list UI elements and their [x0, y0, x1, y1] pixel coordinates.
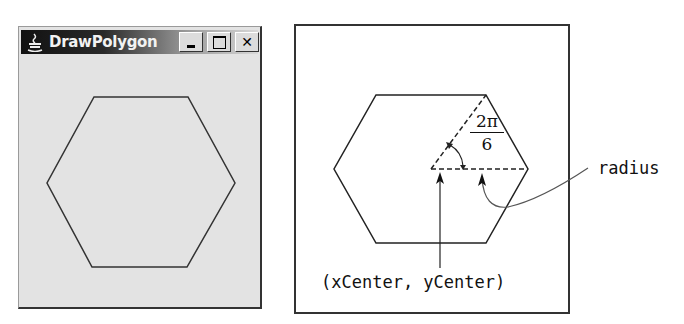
angle-arc-icon — [450, 145, 463, 166]
angle-label: 2π 6 — [470, 110, 504, 155]
center-label: (xCenter, yCenter) — [321, 272, 505, 292]
radius-label: radius — [598, 158, 659, 178]
window-hexagon — [47, 97, 235, 267]
angle-denominator: 6 — [470, 133, 504, 155]
radius-pointer-curve — [482, 168, 588, 207]
angle-numerator: 2π — [470, 110, 504, 133]
radius-arrowhead-icon — [478, 173, 486, 186]
